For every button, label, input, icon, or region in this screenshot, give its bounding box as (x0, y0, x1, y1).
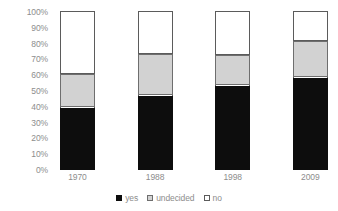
plot-area (52, 12, 338, 170)
bar-group (293, 12, 328, 170)
y-axis-tick-label: 20% (31, 133, 48, 143)
bar-segment-no[interactable] (138, 11, 173, 54)
y-axis-tick-label: 90% (31, 23, 48, 33)
bar-segment-no[interactable] (60, 11, 95, 74)
bar-segment-no[interactable] (215, 11, 250, 55)
legend-item-yes[interactable]: yes (116, 193, 138, 203)
gray-square-icon (147, 195, 153, 201)
legend-item-label: no (213, 193, 222, 203)
x-axis: 1970198819982009 (52, 172, 338, 188)
chart-legend: yesundecidedno (0, 193, 338, 203)
stacked-bar[interactable] (60, 12, 95, 170)
legend-item-label: yes (125, 193, 138, 203)
y-axis-tick-label: 30% (31, 118, 48, 128)
y-axis-tick-label: 100% (27, 7, 48, 17)
legend-item-no[interactable]: no (204, 193, 222, 203)
bar-segment-undecided[interactable] (215, 55, 250, 85)
y-axis: 100%90%80%70%60%50%40%30%20%10%0% (0, 12, 52, 170)
bar-segment-undecided[interactable] (60, 74, 95, 107)
y-axis-tick-label: 50% (31, 86, 48, 96)
legend-item-undecided[interactable]: undecided (147, 193, 194, 203)
x-axis-tick-label: 1988 (138, 172, 173, 182)
stacked-bar[interactable] (138, 12, 173, 170)
x-axis-tick-label: 2009 (293, 172, 328, 182)
y-axis-tick-label: 0% (36, 165, 48, 175)
bar-segment-undecided[interactable] (138, 54, 173, 95)
x-axis-tick-label: 1970 (60, 172, 95, 182)
stacked-bar[interactable] (215, 12, 250, 170)
bar-segment-no[interactable] (293, 11, 328, 41)
white-square-icon (204, 195, 210, 201)
bar-segment-yes[interactable] (215, 86, 250, 170)
bar-group (138, 12, 173, 170)
legend-item-label: undecided (156, 193, 194, 203)
bar-group (215, 12, 250, 170)
bar-segment-yes[interactable] (60, 108, 95, 170)
stacked-bar[interactable] (293, 12, 328, 170)
bar-group (60, 12, 95, 170)
y-axis-tick-label: 80% (31, 39, 48, 49)
y-axis-tick-label: 60% (31, 70, 48, 80)
x-axis-tick-label: 1998 (215, 172, 250, 182)
bar-segment-yes[interactable] (138, 96, 173, 170)
black-square-icon (116, 195, 122, 201)
y-axis-tick-label: 10% (31, 149, 48, 159)
bar-segment-undecided[interactable] (293, 41, 328, 77)
stacked-bar-chart: 100%90%80%70%60%50%40%30%20%10%0% 197019… (0, 0, 338, 211)
y-axis-tick-label: 70% (31, 54, 48, 64)
y-axis-tick-label: 40% (31, 102, 48, 112)
bar-segment-yes[interactable] (293, 78, 328, 170)
